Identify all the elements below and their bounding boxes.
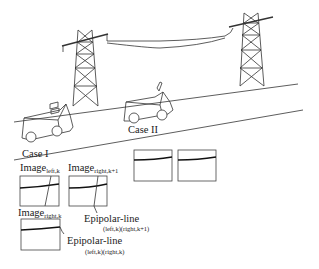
power-tower-left — [62, 30, 108, 106]
epipolar-line-1-subscript: (left,k)(right,k+1) — [103, 225, 149, 232]
vehicle-case1 — [22, 102, 73, 142]
case1-label: Case I — [22, 149, 49, 160]
image-left-k-label: Imageleft,k — [20, 163, 60, 175]
image-right-k1-label: Imageright,k+1 — [68, 163, 118, 175]
power-tower-right — [229, 13, 273, 86]
epipolar-line-2-subscript: (left,k)(right,k) — [85, 248, 124, 255]
diagram-canvas — [0, 0, 319, 269]
image-right-k-label: Imageright,k — [18, 208, 61, 220]
epipolar-line-1-label: Epipolar-line — [84, 214, 139, 225]
vehicle-case2 — [124, 82, 173, 123]
case2-label: Case II — [128, 125, 158, 136]
power-line — [107, 28, 233, 48]
epipolar-line-2-label: Epipolar-line — [67, 236, 122, 247]
road — [14, 84, 303, 160]
